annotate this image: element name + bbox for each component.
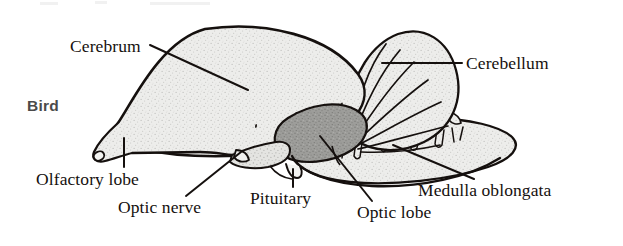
scan-artifact	[40, 2, 58, 5]
label-medulla-oblongata: Medulla oblongata	[418, 182, 551, 200]
label-optic-nerve: Optic nerve	[118, 199, 201, 217]
bird-brain-diagram: Cerebrum Cerebellum Bird Olfactory lobe …	[0, 0, 623, 246]
brain-outline-group	[92, 27, 516, 201]
leader-optic-nerve	[186, 152, 241, 196]
label-olfactory-lobe: Olfactory lobe	[36, 171, 139, 189]
label-optic-lobe: Optic lobe	[357, 204, 431, 222]
label-cerebrum: Cerebrum	[70, 38, 141, 56]
label-cerebellum: Cerebellum	[466, 55, 549, 73]
scan-artifact	[95, 1, 107, 4]
scan-artifact	[150, 2, 210, 5]
label-pituitary: Pituitary	[250, 190, 311, 208]
label-taxon-bird: Bird	[27, 98, 59, 114]
